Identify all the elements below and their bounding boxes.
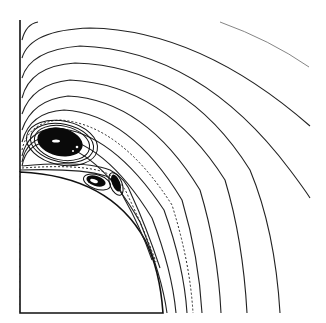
sphere-body <box>20 172 163 313</box>
streamline-figure: Steady streamlines of flow past a sphere… <box>0 0 326 323</box>
